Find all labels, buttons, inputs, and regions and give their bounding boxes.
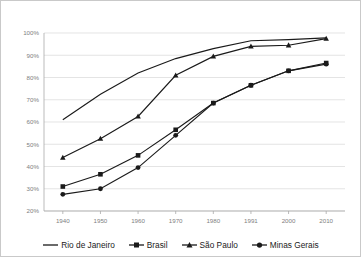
legend-label: Minas Gerais bbox=[270, 240, 319, 250]
y-axis-tick-label: 40% bbox=[27, 163, 40, 170]
legend-label: São Paulo bbox=[200, 240, 238, 250]
data-point-marker-triangle bbox=[98, 136, 104, 141]
data-point-marker-square bbox=[61, 184, 66, 189]
series-rio-de-janeiro bbox=[63, 38, 326, 120]
data-point-marker-square bbox=[173, 127, 178, 132]
legend-marker-square-icon bbox=[128, 240, 145, 250]
legend-item-minas-gerais[interactable]: Minas Gerais bbox=[251, 240, 319, 250]
legend-label: Brasil bbox=[147, 240, 168, 250]
y-axis-tick-label: 70% bbox=[27, 96, 40, 103]
y-axis-tick-label: 20% bbox=[27, 207, 40, 214]
x-axis-tick-label: 1940 bbox=[56, 217, 70, 224]
legend-item-rio-de-janeiro[interactable]: Rio de Janeiro bbox=[42, 240, 115, 250]
y-axis-tick-label: 80% bbox=[27, 74, 40, 81]
data-point-marker-circle bbox=[98, 186, 103, 191]
data-point-marker-circle bbox=[211, 101, 216, 106]
data-point-marker-circle bbox=[324, 62, 329, 67]
series-brasil bbox=[61, 61, 329, 189]
x-axis-tick-labels: 19401950196019701980199120002010 bbox=[56, 217, 334, 224]
y-axis-tick-label: 90% bbox=[27, 52, 40, 59]
y-axis-tick-label: 50% bbox=[27, 141, 40, 148]
data-point-marker-square bbox=[134, 243, 139, 248]
y-axis-tick-label: 30% bbox=[27, 185, 40, 192]
x-axis-tick-label: 1950 bbox=[94, 217, 108, 224]
data-point-marker-square bbox=[98, 172, 103, 177]
legend-marker-circle-icon bbox=[251, 240, 268, 250]
x-axis-tick-label: 1980 bbox=[206, 217, 220, 224]
x-axis-tick-label: 1970 bbox=[169, 217, 183, 224]
series-line bbox=[63, 38, 326, 120]
y-axis-tick-label: 60% bbox=[27, 118, 40, 125]
legend-item-brasil[interactable]: Brasil bbox=[128, 240, 168, 250]
y-axis-tick-label: 100% bbox=[23, 29, 39, 36]
series-são-paulo bbox=[60, 36, 329, 160]
x-axis-tick-label: 1991 bbox=[244, 217, 258, 224]
series-line bbox=[63, 63, 326, 186]
data-point-marker-circle bbox=[173, 133, 178, 138]
y-axis-tick-labels: 100%90%80%70%60%50%40%30%20% bbox=[23, 29, 39, 214]
legend-item-são-paulo[interactable]: São Paulo bbox=[181, 240, 238, 250]
data-point-marker-circle bbox=[60, 192, 65, 197]
x-axis-tick-label: 2000 bbox=[282, 217, 296, 224]
data-series-group bbox=[60, 36, 329, 197]
line-chart-plot: 100%90%80%70%60%50%40%30%20% 19401950196… bbox=[1, 1, 361, 257]
data-point-marker-circle bbox=[286, 68, 291, 73]
x-axis bbox=[44, 33, 345, 214]
legend-marker-triangle-icon bbox=[181, 240, 198, 250]
data-point-marker-circle bbox=[249, 83, 254, 88]
data-point-marker-circle bbox=[257, 242, 262, 247]
x-axis-tick-label: 1960 bbox=[131, 217, 145, 224]
legend-marker-none-icon bbox=[42, 240, 59, 250]
legend-label: Rio de Janeiro bbox=[61, 240, 115, 250]
data-point-marker-circle bbox=[136, 165, 141, 170]
chart-legend: Rio de JaneiroBrasilSão PauloMinas Gerai… bbox=[1, 240, 360, 250]
data-point-marker-square bbox=[136, 153, 141, 158]
x-axis-tick-label: 2010 bbox=[319, 217, 333, 224]
gridlines bbox=[44, 33, 345, 211]
chart-container: 100%90%80%70%60%50%40%30%20% 19401950196… bbox=[0, 0, 361, 257]
